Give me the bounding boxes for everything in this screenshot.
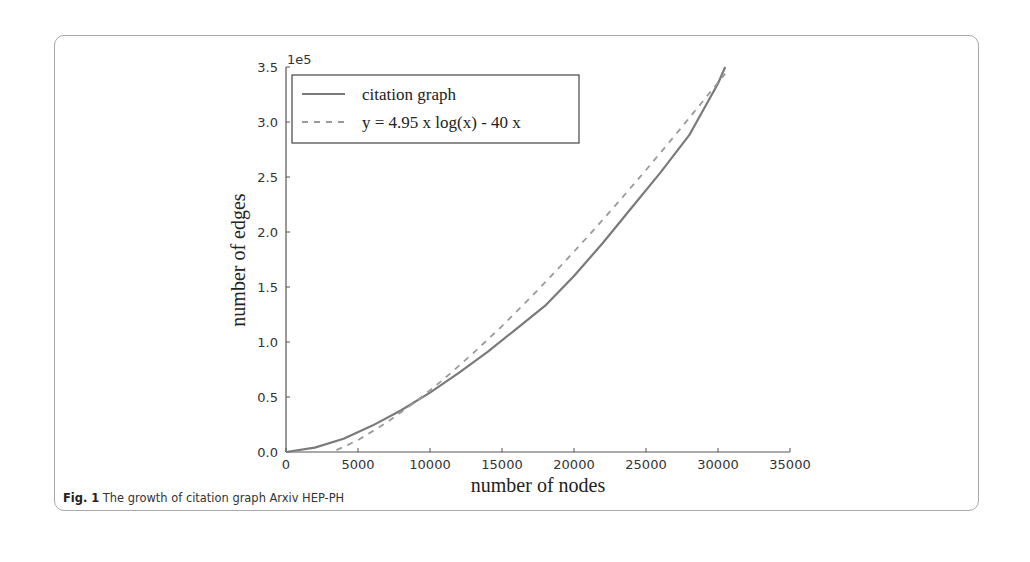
y-tick-label: 3.0	[257, 115, 278, 130]
x-tick-label: 25000	[625, 457, 666, 472]
chart: 050001000015000200002500030000350000.00.…	[0, 0, 1030, 562]
x-tick-label: 10000	[409, 457, 450, 472]
y-tick-label: 2.0	[257, 225, 278, 240]
x-axis-label: number of nodes	[471, 474, 606, 496]
y-tick-label: 0.5	[257, 390, 278, 405]
y-tick-label: 2.5	[257, 170, 278, 185]
x-tick-label: 15000	[481, 457, 522, 472]
legend-label-citation-graph: citation graph	[362, 85, 456, 104]
figure-label: Fig. 1	[63, 490, 99, 505]
y-offset-label: 1e5	[287, 52, 312, 67]
x-tick-label: 20000	[553, 457, 594, 472]
y-tick-label: 1.0	[257, 335, 278, 350]
legend: citation graph y = 4.95 x log(x) - 40 x	[292, 75, 579, 143]
y-tick-label: 3.5	[257, 60, 278, 75]
y-axis-label: number of edges	[227, 193, 250, 327]
x-tick-label: 35000	[769, 457, 810, 472]
x-tick-label: 30000	[697, 457, 738, 472]
x-tick-label: 5000	[341, 457, 374, 472]
y-tick-label: 1.5	[257, 280, 278, 295]
figure-caption-text: The growth of citation graph Arxiv HEP-P…	[103, 490, 344, 505]
y-tick-label: 0.0	[257, 445, 278, 460]
x-tick-label: 0	[282, 457, 290, 472]
legend-label-fit: y = 4.95 x log(x) - 40 x	[362, 113, 521, 132]
figure-caption: Fig. 1 The growth of citation graph Arxi…	[63, 490, 344, 505]
